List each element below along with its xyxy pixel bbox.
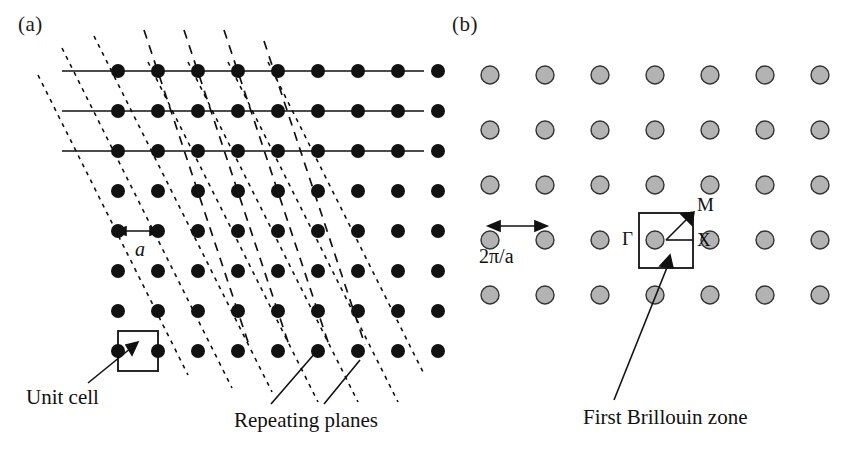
unit-cell-arrowhead [126,342,138,355]
reciprocal-lattice-dot [811,66,829,84]
reciprocal-lattice-dot [536,231,554,249]
lattice-dot [431,184,445,198]
lattice-dot [151,264,165,278]
reciprocal-lattice-dot [591,121,609,139]
lattice-dot [311,224,325,238]
reciprocal-lattice-dot [481,66,499,84]
lattice-dot [271,264,285,278]
reciprocal-lattice-dot [646,231,664,249]
lattice-dot [111,304,125,318]
lattice-dot [231,264,245,278]
lattice-dot [111,104,125,118]
lattice-dot [391,344,405,358]
lattice-dot [191,144,205,158]
reciprocal-lattice-dot [591,286,609,304]
lattice-dot [231,64,245,78]
panel-label-a: (a) [18,12,43,37]
dashed-repeating-planes [144,30,365,345]
lattice-dot [271,144,285,158]
symmetry-point-gamma: Γ [622,228,633,250]
lattice-dot [191,184,205,198]
reciprocal-lattice-dot [811,176,829,194]
lattice-dot [231,304,245,318]
symmetry-point-x: X [697,229,711,251]
lattice-dot [231,184,245,198]
lattice-dot [391,64,405,78]
lattice-dot [431,344,445,358]
reciprocal-lattice-dot [536,286,554,304]
lattice-dot [151,184,165,198]
reciprocal-lattice-dot [756,66,774,84]
symmetry-point-m: M [697,194,714,216]
lattice-dot [191,304,205,318]
lattice-dot [351,64,365,78]
lattice-dot [351,304,365,318]
reciprocal-lattice-dot [756,121,774,139]
lattice-dot [431,64,445,78]
lattice-dot [151,64,165,78]
reciprocal-lattice-dot [591,66,609,84]
brillouin-zone-leader-line [614,265,668,400]
reciprocal-lattice-dot [481,176,499,194]
lattice-dot [391,304,405,318]
lattice-dot [351,184,365,198]
lattice-dot [311,64,325,78]
reciprocal-lattice-dot [646,66,664,84]
lattice-dot [231,104,245,118]
panel-a-group [38,30,445,404]
lattice-dot [351,104,365,118]
panel-b-group [481,66,829,400]
lattice-dot [391,184,405,198]
reciprocal-lattice-dot [701,121,719,139]
reciprocal-lattice-dot [591,231,609,249]
lattice-dot [151,224,165,238]
reciprocal-lattice-dot [646,286,664,304]
lattice-dot [271,304,285,318]
reciprocal-lattice-dot [591,176,609,194]
lattice-dot [271,104,285,118]
lattice-dot [431,144,445,158]
reciprocal-lattice-dot [756,176,774,194]
lattice-dot [431,304,445,318]
reciprocal-lattice-dot [481,121,499,139]
lattice-dot [111,224,125,238]
lattice-dot [351,344,365,358]
reciprocal-lattice-dot [701,286,719,304]
reciprocal-lattice-dot [481,286,499,304]
lattice-dot [431,104,445,118]
figure-canvas [0,0,868,455]
lattice-dot [391,104,405,118]
lattice-dot [311,184,325,198]
lattice-dot [351,144,365,158]
lattice-dot [151,104,165,118]
lattice-dot [231,344,245,358]
reciprocal-lattice-dot [811,286,829,304]
reciprocal-spacing-arrowhead-right [535,221,547,231]
lattice-dot [111,264,125,278]
lattice-dot [191,224,205,238]
lattice-dot [431,264,445,278]
brillouin-zone-caption: First Brillouin zone [583,405,748,430]
reciprocal-lattice-dot [646,176,664,194]
dotted-plane-1 [38,75,188,375]
repeating-planes-caption: Repeating planes [234,408,378,433]
lattice-dot [391,144,405,158]
lattice-dot [391,264,405,278]
lattice-dot [311,344,325,358]
reciprocal-lattice-dot [701,176,719,194]
reciprocal-lattice-dot [811,231,829,249]
reciprocal-lattice-dot [756,231,774,249]
reciprocal-spacing-label: 2π/a [479,245,514,268]
lattice-dot [151,304,165,318]
lattice-dot [271,184,285,198]
lattice-dot [311,304,325,318]
lattice-dot [271,64,285,78]
lattice-dot [271,224,285,238]
brillouin-zone-arrowhead [660,255,673,268]
reciprocal-lattice-dot [756,286,774,304]
reciprocal-lattice-dot [536,176,554,194]
repeating-planes-leader-dotted [324,360,360,404]
lattice-dot [191,344,205,358]
unit-cell-caption: Unit cell [26,385,99,410]
lattice-dot [111,184,125,198]
